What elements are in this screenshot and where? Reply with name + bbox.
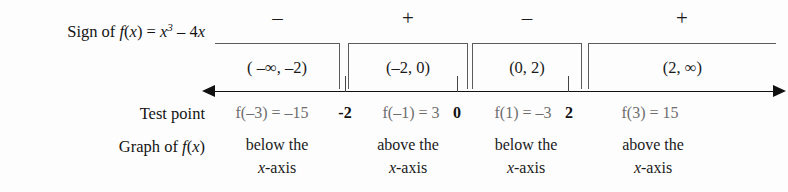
graph-description-1-line1: below the [246,136,309,153]
interval-bracket-2: (–2, 0) [348,43,468,89]
axis-tick-label-2: 0 [442,104,472,122]
test-point-value-1: f(–3) = –15 [208,104,336,122]
sign-symbol-interval-1: – [215,8,340,29]
axis-tick-label-1: -2 [328,104,362,122]
interval-notation-1: ( –∞, –2) [215,58,339,78]
graph-description-2-line1: above the [377,136,439,153]
test-point-value-4: f(3) = 15 [590,104,710,122]
interval-notation-4: (2, ∞) [589,58,776,78]
interval-bracket-3: (0, 2) [472,43,582,89]
interval-notation-2: (–2, 0) [349,58,467,78]
axis-tick-3 [568,76,569,92]
sign-label-head: Sign of f(x) = x3 – 4x [67,22,205,41]
sign-chart: Sign of f(x) = x3 – 4x Test point Graph … [0,0,788,192]
graph-description-1-line2: x-axis [213,157,341,180]
graph-description-3-line2: x-axis [470,157,582,180]
graph-description-2: above the x-axis [348,134,468,179]
graph-description-3: below the x-axis [470,134,582,179]
row-label-test-point: Test point [140,104,205,124]
axis-tick-label-3: 2 [554,104,584,122]
graph-description-4-line1: above the [622,136,684,153]
axis-tick-1 [345,76,346,92]
interval-notation-3: (0, 2) [473,58,581,78]
exponent-three: 3 [167,20,173,32]
number-line-axis [213,91,776,92]
graph-description-1: below the x-axis [213,134,341,179]
graph-description-4: above the x-axis [588,134,718,179]
sign-symbol-interval-4: + [588,8,776,29]
axis-tick-2 [457,76,458,92]
interval-bracket-4: (2, ∞) [588,43,776,89]
interval-bracket-1: ( –∞, –2) [215,43,340,89]
row-label-graph: Graph of f(x) [119,137,205,157]
sign-symbol-interval-3: – [472,8,582,29]
row-label-sign: Sign of f(x) = x3 – 4x [67,20,205,42]
sign-symbol-interval-2: + [348,8,468,29]
axis-arrow-right-icon [773,85,786,97]
axis-arrow-left-icon [202,85,215,97]
graph-description-3-line1: below the [495,136,558,153]
graph-description-2-line2: x-axis [348,157,468,180]
graph-description-4-line2: x-axis [588,157,718,180]
